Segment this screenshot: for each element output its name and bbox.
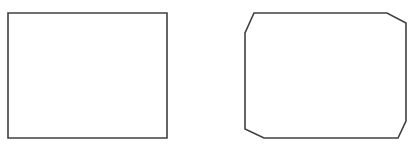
diagram-canvas bbox=[0, 0, 417, 154]
beveled-rectangle-shape bbox=[245, 13, 406, 138]
rectangle-shape bbox=[8, 13, 167, 138]
